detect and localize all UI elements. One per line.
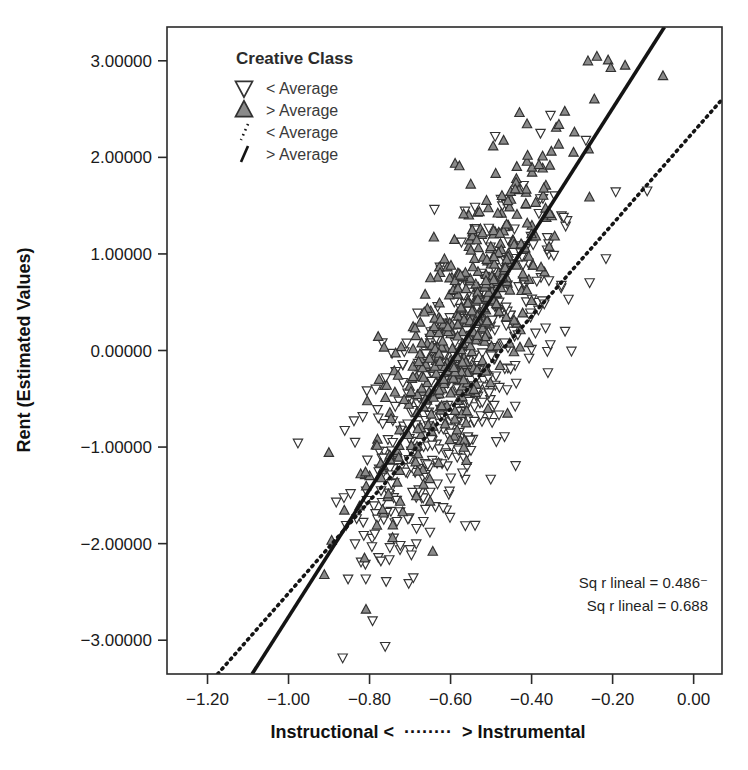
y-axis-title: Rent (Estimated Values) (14, 247, 34, 452)
legend-entry-label: > Average (266, 102, 338, 119)
y-tick-label: −2.00000 (81, 535, 152, 554)
y-tick-label: −1.00000 (81, 438, 152, 457)
y-tick-label: −3.00000 (81, 631, 152, 650)
x-axis-title: Instructional <········> Instrumental (270, 722, 585, 742)
annotation-r-squared: Sq r lineal = 0.486⁻ (579, 574, 708, 591)
x-tick-label: −0.40 (510, 690, 553, 709)
x-tick-label: −0.20 (591, 690, 634, 709)
y-tick-label: 0.00000 (91, 342, 152, 361)
legend-title: Creative Class (236, 49, 353, 68)
x-tick-label: −1.20 (186, 690, 229, 709)
y-tick-label: 2.00000 (91, 148, 152, 167)
x-tick-label: −0.60 (429, 690, 472, 709)
legend-entry-label: > Average (266, 146, 338, 163)
x-tick-label: −1.00 (267, 690, 310, 709)
scatter-chart: 3.000002.000001.000000.00000−1.00000−2.0… (0, 0, 748, 770)
legend-entry-label: < Average (266, 124, 338, 141)
y-tick-label: 3.00000 (91, 52, 152, 71)
x-tick-label: 0.00 (677, 690, 710, 709)
legend-entry-label: < Average (266, 80, 338, 97)
annotation-r-squared: Sq r lineal = 0.688 (587, 597, 708, 614)
y-tick-label: 1.00000 (91, 245, 152, 264)
x-tick-label: −0.80 (348, 690, 391, 709)
chart-svg: 3.000002.000001.000000.00000−1.00000−2.0… (0, 0, 748, 770)
x-axis-title-text: Instructional <········> Instrumental (270, 722, 585, 742)
